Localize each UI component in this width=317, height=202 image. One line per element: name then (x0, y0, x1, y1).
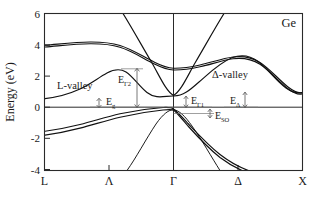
x-tick-label-X: X (298, 174, 307, 188)
annotation-edelta: E Δ (224, 92, 258, 108)
y-tick-label: -4 (31, 164, 41, 176)
label-l-valley: L-valley (57, 80, 93, 91)
annotation-egamma1-sub: Γ1 (197, 101, 204, 108)
y-axis-ticks (45, 14, 51, 170)
y-tick-label: 0 (35, 101, 41, 113)
material-label: Ge (281, 16, 296, 30)
annotation-egamma2-sub: Γ2 (124, 80, 131, 87)
y-tick-labels: 6 4 2 0 -2 -4 (31, 8, 41, 176)
annotation-edelta-sub: Δ (236, 101, 240, 108)
x-tick-label-L: L (41, 174, 48, 188)
band-structure-plot: 6 4 2 0 -2 -4 Energy (eV) L Λ Γ Δ X (0, 0, 317, 202)
y-tick-label: 2 (35, 70, 41, 82)
annotation-egamma2: E Γ2 (118, 68, 143, 107)
annotation-eso-sub: SO (221, 116, 230, 123)
x-tick-labels: L Λ Γ Δ X (41, 174, 307, 188)
band-structure-figure: 6 4 2 0 -2 -4 Energy (eV) L Λ Γ Δ X (0, 0, 317, 202)
x-tick-label-Gamma: Γ (170, 174, 177, 188)
y-tick-label: 6 (35, 8, 41, 20)
x-tick-label-Lambda: Λ (105, 174, 114, 188)
label-delta-valley: Δ-valley (212, 69, 249, 80)
y-axis-title: Energy (eV) (3, 62, 17, 121)
y-tick-label: 4 (35, 39, 41, 51)
x-axis-ticks (45, 165, 303, 171)
y-tick-label: -2 (31, 132, 40, 144)
x-tick-label-Delta: Δ (234, 174, 242, 188)
annotation-egamma1: E Γ1 (174, 95, 213, 108)
annotation-eso: E SO (174, 109, 230, 123)
